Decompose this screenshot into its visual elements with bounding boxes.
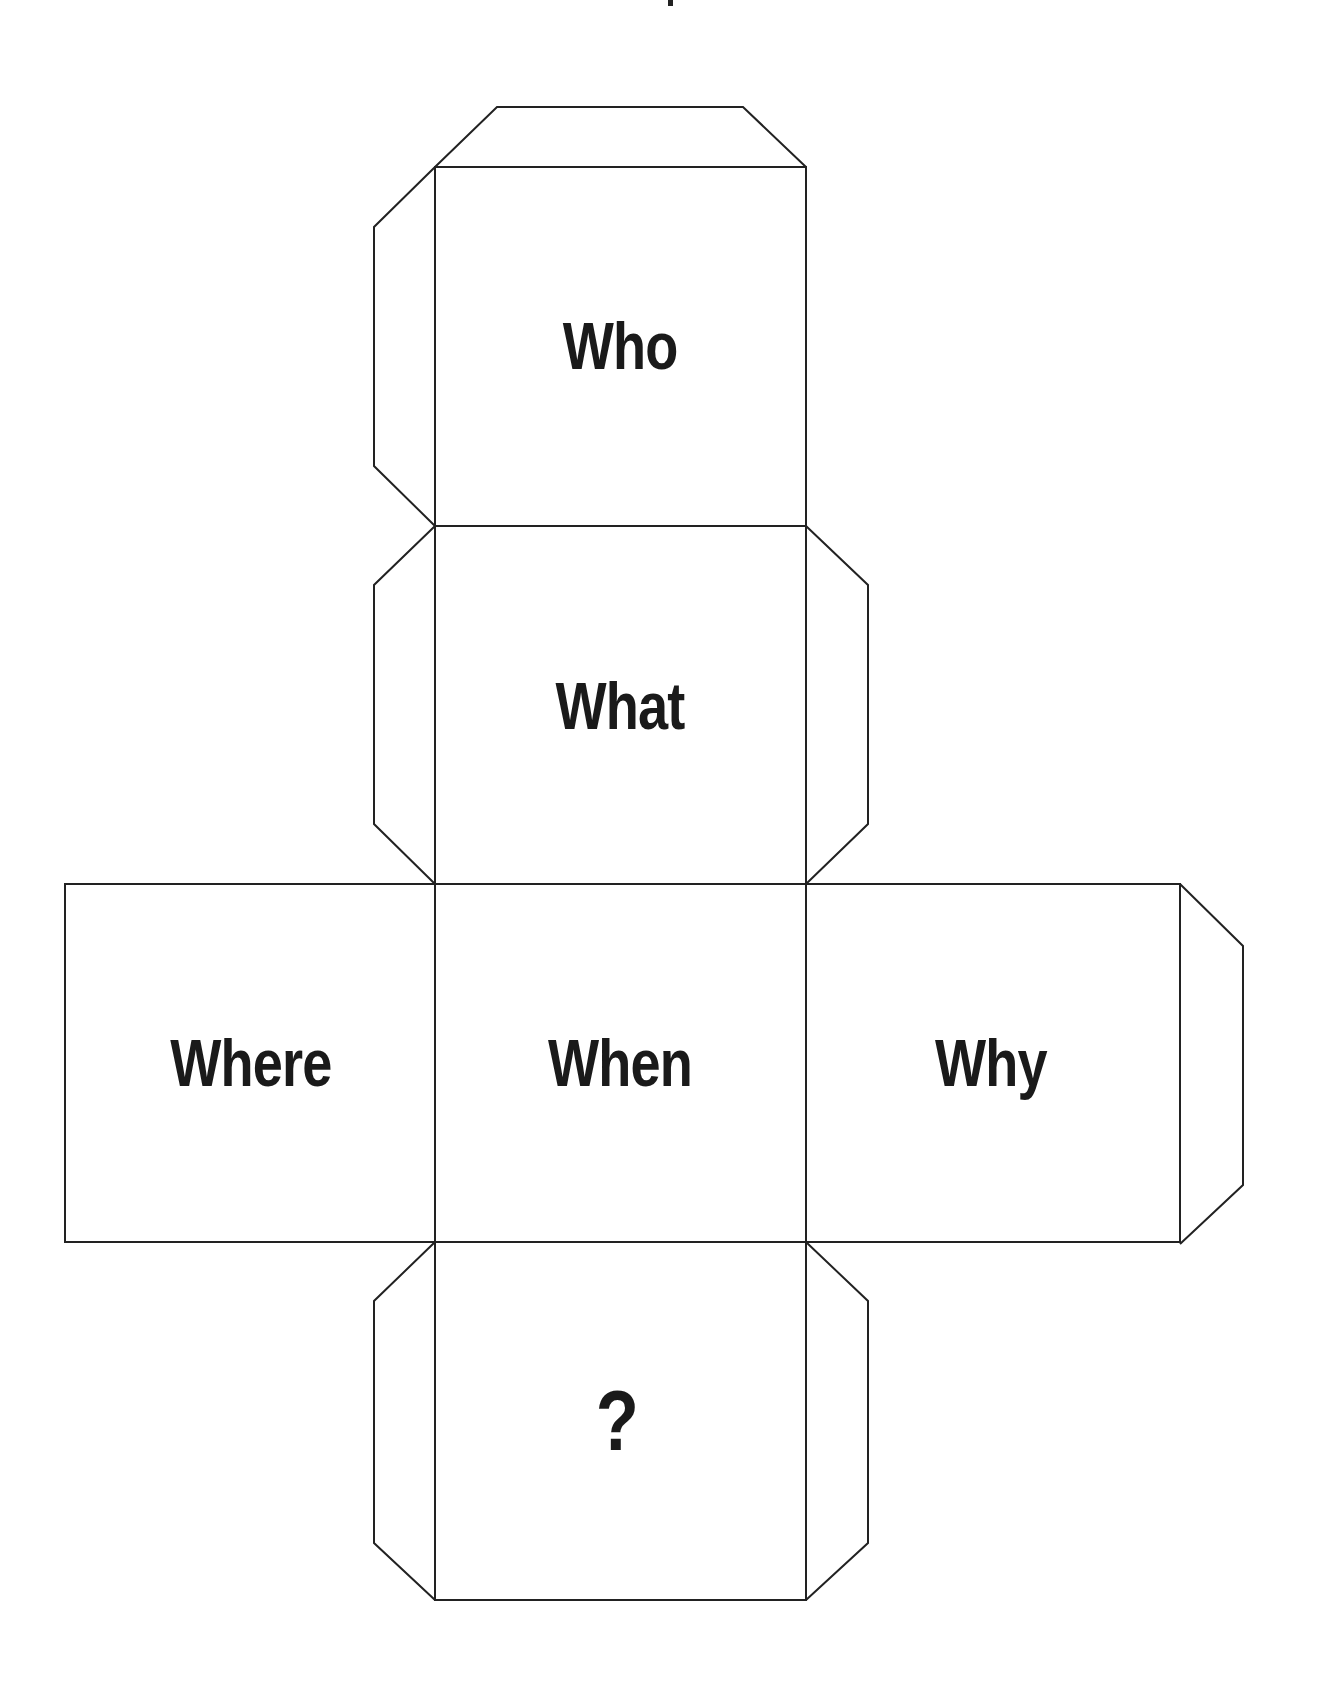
cube-net-diagram <box>0 0 1321 1682</box>
face-label-when: When <box>548 1030 692 1096</box>
glue-tab-question-left <box>374 1242 435 1600</box>
glue-tab-what-left <box>374 526 435 884</box>
face-label-what: What <box>556 673 685 739</box>
face-label-question-mark: ? <box>596 1377 638 1463</box>
face-label-why: Why <box>935 1030 1047 1096</box>
glue-tab-who-left <box>374 167 435 526</box>
glue-tab-why-right <box>1180 884 1243 1244</box>
glue-tab-top <box>435 107 806 167</box>
face-label-where: Where <box>170 1030 331 1096</box>
glue-tab-question-right <box>806 1242 868 1600</box>
glue-tab-what-right <box>806 526 868 884</box>
face-label-who: Who <box>563 313 678 379</box>
